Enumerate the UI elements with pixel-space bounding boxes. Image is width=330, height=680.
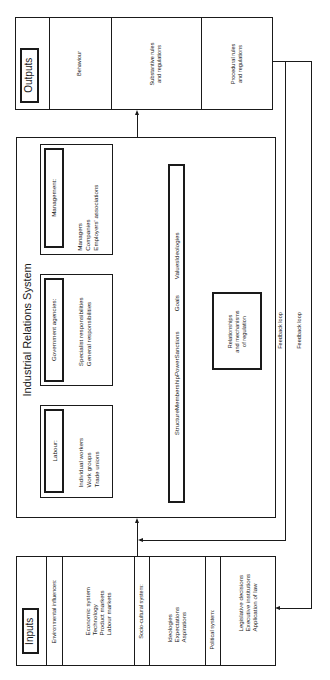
political-system-label: Political system: — [205, 556, 220, 666]
environmental-influences-label: Environmental influences: — [46, 556, 62, 666]
dimension-ideologies: Ideologies — [173, 232, 181, 260]
management-label: Management: — [44, 148, 64, 248]
sociocultural-system-label: Socio-cultural system: — [134, 556, 149, 666]
dimension-goals: Goals — [173, 295, 181, 311]
labour-label: Labour: — [44, 409, 64, 493]
inputs-label: Inputs — [22, 608, 39, 654]
arrow-up-icon — [135, 518, 139, 523]
outputs-label: Outputs — [20, 48, 39, 103]
irs-title: Industrial Relations System — [18, 200, 38, 460]
labour-items: Individual workers Work groups Trade uni… — [66, 409, 112, 493]
feedback-loop-outer-label: Feedback loop — [292, 300, 306, 360]
arrow-up-icon — [135, 110, 139, 115]
output-substantive-rules: Substantive rulesand regulations — [111, 17, 201, 110]
political-system-items: Legislative decisions Executive institut… — [220, 556, 275, 666]
government-label: Government agencies: — [44, 278, 64, 382]
dimension-power: Power — [173, 358, 181, 376]
dimension-membership: Membership — [173, 376, 181, 410]
connector-inputs-to-irs — [137, 522, 138, 556]
sociocultural-system-items: Ideologies Expectations Aspirations — [149, 556, 205, 666]
environmental-influences-items: Economic system Technology Product marke… — [62, 556, 134, 666]
dimension-values: Values — [173, 260, 181, 278]
output-behaviour: Behaviour — [49, 17, 111, 110]
feedback-loop-outer-line — [311, 61, 312, 609]
feedback-loop-inner-label: Feedback loop — [276, 300, 285, 360]
feedback-loop-inner-return — [140, 540, 286, 541]
output-procedural-rules: Procedural rulesand regulations — [201, 17, 273, 110]
government-items: Specialist responsibilities General resp… — [66, 278, 102, 382]
arrow-left-icon — [138, 538, 143, 542]
feedback-loop-outer-return — [278, 608, 312, 609]
connector-irs-to-outputs — [137, 114, 138, 137]
feedback-loop-inner-line — [285, 61, 286, 541]
management-items: Managers Companies Employers' associatio… — [66, 148, 110, 248]
dimensions-labels: Structure Membership Power Sanctions Goa… — [168, 164, 185, 503]
feedback-exit-line — [273, 61, 311, 62]
dimension-structure: Structure — [173, 410, 181, 435]
dimension-sanctions: Sanctions — [173, 331, 181, 358]
relationships-label: Relationships and mechanisms of regulati… — [212, 292, 262, 370]
